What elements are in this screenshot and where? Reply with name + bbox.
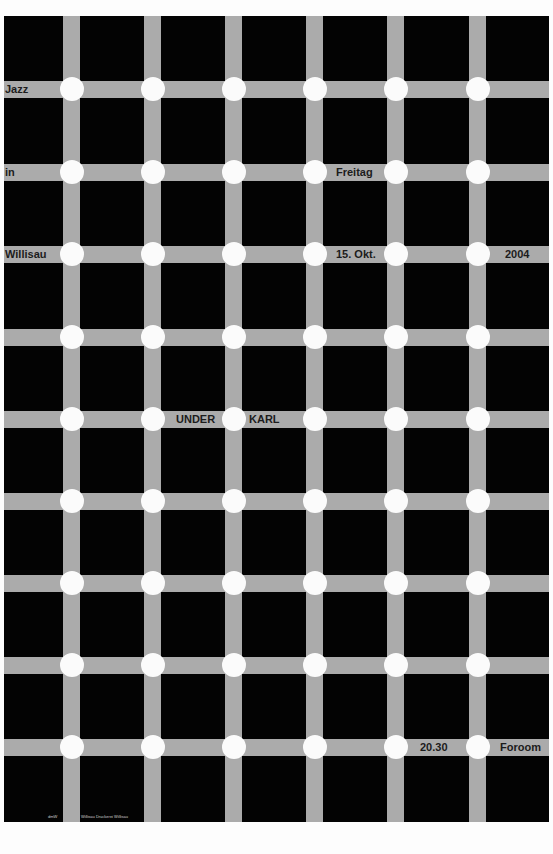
intersection-dot	[141, 242, 165, 266]
intersection-dot	[466, 571, 490, 595]
label-in: in	[5, 164, 15, 181]
label-date: 15. Okt.	[336, 246, 376, 263]
intersection-dot	[222, 489, 246, 513]
intersection-dot	[303, 489, 327, 513]
label-venue: Foroom	[500, 739, 541, 756]
intersection-dot	[141, 407, 165, 431]
intersection-dot	[303, 735, 327, 759]
intersection-dot	[141, 160, 165, 184]
intersection-dot	[466, 242, 490, 266]
intersection-dot	[141, 489, 165, 513]
intersection-dot	[60, 489, 84, 513]
intersection-dot	[466, 489, 490, 513]
intersection-dot	[303, 325, 327, 349]
label-weekday: Freitag	[336, 164, 373, 181]
intersection-dot	[384, 571, 408, 595]
fine-print-left: dmW	[48, 814, 57, 820]
intersection-dot	[60, 77, 84, 101]
intersection-dot	[384, 77, 408, 101]
intersection-dot	[222, 242, 246, 266]
label-year: 2004	[505, 246, 529, 263]
intersection-dot	[60, 735, 84, 759]
intersection-dot	[303, 242, 327, 266]
intersection-dot	[384, 242, 408, 266]
intersection-dot	[60, 160, 84, 184]
intersection-dot	[384, 489, 408, 513]
intersection-dot	[303, 160, 327, 184]
label-jazz: Jazz	[5, 81, 28, 98]
intersection-dot	[303, 77, 327, 101]
intersection-dot	[303, 653, 327, 677]
intersection-dot	[222, 407, 246, 431]
intersection-dot	[384, 407, 408, 431]
intersection-dot	[466, 77, 490, 101]
fine-print-right: Willisau Druckerei Willisau	[81, 814, 128, 820]
intersection-dot	[222, 571, 246, 595]
intersection-dot	[141, 571, 165, 595]
label-time: 20.30	[420, 739, 448, 756]
intersection-dot	[384, 735, 408, 759]
intersection-dot	[222, 325, 246, 349]
intersection-dot	[141, 325, 165, 349]
label-willisau: Willisau	[5, 246, 46, 263]
intersection-dot	[222, 653, 246, 677]
intersection-dot	[384, 325, 408, 349]
intersection-dot	[303, 571, 327, 595]
intersection-dot	[222, 735, 246, 759]
intersection-dot	[222, 160, 246, 184]
intersection-dot	[60, 242, 84, 266]
intersection-dot	[60, 571, 84, 595]
intersection-dot	[222, 77, 246, 101]
intersection-dot	[60, 325, 84, 349]
intersection-dot	[466, 160, 490, 184]
intersection-dot	[141, 735, 165, 759]
label-artist-second: KARL	[249, 411, 280, 428]
intersection-dot	[466, 653, 490, 677]
label-artist-first: UNDER	[176, 411, 215, 428]
intersection-dot	[141, 77, 165, 101]
intersection-dot	[384, 653, 408, 677]
intersection-dot	[466, 735, 490, 759]
intersection-dot	[60, 653, 84, 677]
intersection-dot	[466, 325, 490, 349]
intersection-dot	[60, 407, 84, 431]
intersection-dot	[384, 160, 408, 184]
intersection-dot	[466, 407, 490, 431]
jazz-poster: Jazz in Willisau Freitag 15. Okt. 2004 U…	[4, 16, 549, 822]
intersection-dot	[141, 653, 165, 677]
intersection-dot	[303, 407, 327, 431]
